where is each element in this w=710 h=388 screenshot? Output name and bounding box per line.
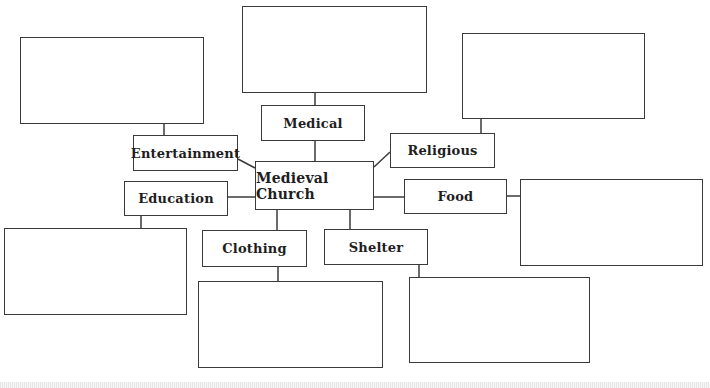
religious-answer-box[interactable]	[462, 33, 645, 119]
religious-node: Religious	[390, 133, 495, 168]
clothing-answer-box[interactable]	[198, 281, 383, 368]
shelter-answer-box[interactable]	[409, 277, 590, 363]
medical-node: Medical	[261, 105, 365, 141]
clothing-node: Clothing	[202, 230, 307, 267]
food-answer-box[interactable]	[520, 179, 703, 266]
education-answer-box[interactable]	[4, 228, 187, 315]
entertainment-node: Entertainment	[133, 135, 238, 171]
education-node: Education	[124, 181, 228, 216]
medical-answer-box[interactable]	[242, 6, 427, 93]
shelter-node: Shelter	[324, 229, 428, 265]
entertainment-answer-box[interactable]	[20, 37, 204, 124]
medieval-church-center-node: Medieval Church	[255, 161, 374, 210]
scan-edge-band	[0, 382, 710, 388]
food-node: Food	[404, 179, 507, 214]
